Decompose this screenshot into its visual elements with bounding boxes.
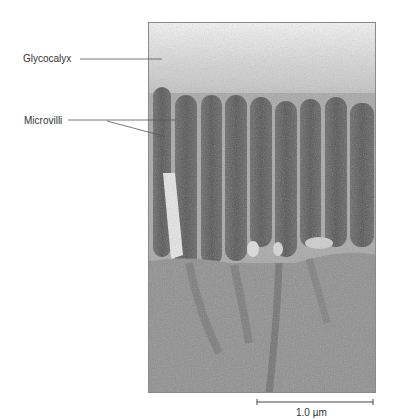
microvilli-label: Microvilli bbox=[24, 115, 62, 127]
microvilli-leader-line-2 bbox=[107, 121, 163, 136]
micrograph-figure: Glycocalyx Microvilli 1.0 µm bbox=[0, 0, 398, 420]
glycocalyx-label: Glycocalyx bbox=[23, 53, 71, 65]
scale-bar-label: 1.0 µm bbox=[296, 407, 327, 419]
scale-bar bbox=[257, 399, 373, 405]
